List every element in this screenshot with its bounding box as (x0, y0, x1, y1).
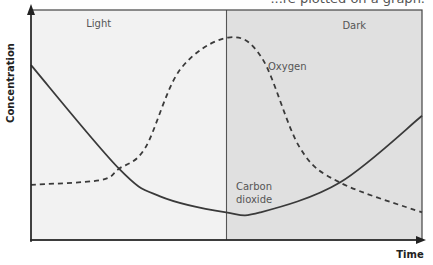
concentration-chart: Light Dark Oxygen Carbon dioxide Concent… (0, 0, 433, 265)
y-axis-label: Concentration (5, 43, 16, 123)
light-region-label: Light (86, 18, 111, 29)
oxygen-label: Oxygen (268, 61, 307, 72)
dark-region (227, 10, 423, 240)
light-region (31, 10, 227, 240)
carbon-dioxide-label-line2: dioxide (236, 194, 272, 205)
x-axis-label: Time (396, 249, 424, 260)
dark-region-label: Dark (342, 20, 366, 31)
carbon-dioxide-label-line1: Carbon (236, 181, 272, 192)
